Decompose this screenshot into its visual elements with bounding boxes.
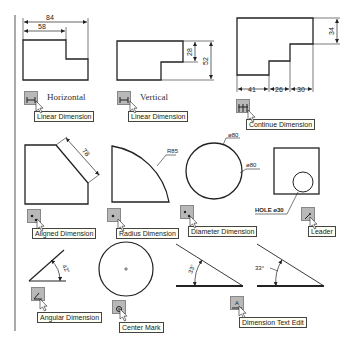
diameter-shape	[186, 138, 260, 199]
dim-text: 42°	[61, 264, 71, 275]
linear-dimension-button[interactable]	[24, 91, 38, 105]
leader-shape	[255, 148, 319, 214]
aligned-dimension-button[interactable]	[27, 209, 41, 223]
horizontal-shape	[23, 18, 88, 80]
dim-text-edit-shape-2	[257, 244, 324, 286]
continue-dimension-icon	[237, 102, 249, 114]
dim-text: 33°	[255, 265, 265, 271]
tooltip-linear-dimension: Linear Dimension	[128, 111, 188, 122]
dim-text: 28	[186, 48, 193, 56]
dim-text: 33°	[187, 263, 196, 274]
diameter-dimension-icon	[181, 208, 193, 220]
tooltip-angular-dimension: Angular Dimension	[37, 312, 102, 323]
angular-dimension-icon	[32, 290, 44, 302]
center-mark-button[interactable]	[112, 300, 126, 314]
radius-dimension-button[interactable]	[107, 208, 121, 222]
linear-dimension-button[interactable]	[117, 91, 131, 105]
radius-shape	[112, 146, 176, 202]
svg-text:A: A	[235, 300, 239, 306]
aligned-shape	[25, 137, 100, 204]
angular-shape	[29, 250, 66, 281]
dim-text: 26	[275, 86, 283, 93]
dim-text: 30	[297, 86, 305, 93]
tooltip-linear-dimension: Linear Dimension	[34, 111, 94, 122]
drawing-canvas: 84 58 28 52 41 26 30 34 78 R85 ø80 ø80 H…	[0, 0, 352, 351]
vertical-shape	[117, 41, 214, 80]
tooltip-continue-dimension: Continue Dimension	[246, 119, 315, 130]
continue-dimension-button[interactable]	[236, 99, 250, 113]
angular-dimension-button[interactable]	[31, 287, 45, 301]
leader-icon	[302, 210, 314, 222]
tooltip-aligned-dimension: Aligned Dimension	[32, 228, 96, 239]
leader-button[interactable]	[301, 207, 315, 221]
tooltip-radius-dimension: Radius Dimension	[116, 228, 179, 239]
linear-dimension-icon	[25, 94, 37, 106]
dim-text: 34	[328, 27, 335, 35]
tooltip-center-mark: Center Mark	[119, 322, 164, 333]
dim-text: ø80	[228, 132, 239, 138]
linear-dimension-icon	[118, 94, 130, 106]
center-mark-icon	[113, 303, 125, 315]
dim-text: 58	[38, 23, 46, 30]
radius-dimension-icon	[108, 211, 120, 223]
center-mark-shape	[99, 242, 153, 296]
leader-note: HOLE ø30	[255, 207, 284, 213]
vertical-label: Vertical	[140, 92, 168, 102]
dim-text: ø80	[246, 162, 257, 168]
dimension-text-edit-icon: A	[231, 299, 243, 311]
tooltip-dimension-text-edit: Dimension Text Edit	[239, 317, 307, 328]
dim-text: 84	[46, 14, 54, 21]
diameter-dimension-button[interactable]	[180, 205, 194, 219]
dim-text-edit-shape-1	[176, 244, 243, 286]
dim-text: 52	[202, 57, 209, 65]
dimension-text-edit-button[interactable]: A	[230, 296, 244, 310]
aligned-dimension-icon	[28, 212, 40, 224]
dim-text: 41	[248, 86, 256, 93]
dim-text: R85	[167, 148, 179, 154]
continue-shape	[237, 18, 340, 92]
tooltip-leader: Leader	[308, 226, 336, 237]
tooltip-diameter-dimension: Diameter Dimension	[188, 226, 257, 237]
horizontal-label: Horizontal	[47, 92, 86, 102]
